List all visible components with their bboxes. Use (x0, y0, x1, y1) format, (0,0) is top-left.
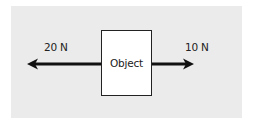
right-force-label: 10 N (185, 41, 209, 53)
right-force-arrow (152, 59, 194, 70)
object-box: Object (101, 30, 152, 96)
left-force-label: 20 N (44, 41, 68, 53)
left-force-arrow (27, 59, 101, 70)
object-label: Object (110, 57, 143, 69)
